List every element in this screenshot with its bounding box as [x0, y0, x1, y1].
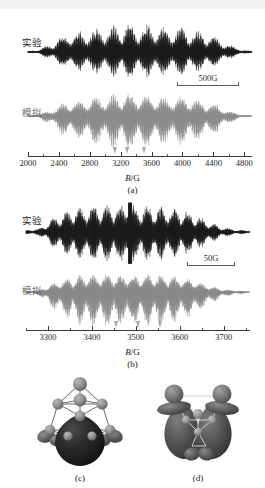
panel-a-scalebar-label: 500G [177, 74, 239, 83]
axis-tick-minor [114, 328, 115, 331]
axis-tick-minor [158, 328, 159, 331]
axis-tick-minor [74, 154, 75, 157]
axis-tick-label: 4400 [205, 159, 222, 168]
axis-tick-major [182, 152, 183, 156]
axis-tick-major [136, 326, 137, 330]
axis-tick-minor [26, 328, 27, 331]
axis-tick-minor [202, 328, 203, 331]
axis-tick-minor [43, 154, 44, 157]
panel-a-simulation-label: 模拟 [22, 108, 43, 118]
axis-tick-minor [229, 154, 230, 157]
panel-a-scalebar-cap-left [177, 82, 178, 86]
panel-d-structure [146, 374, 250, 472]
axis-tick-label: 3500 [127, 333, 144, 342]
axis-tick-label: 4800 [236, 159, 253, 168]
axis-tick-minor [70, 328, 71, 331]
panel-b-experiment-label: 实验 [22, 216, 43, 226]
axis-tick-major [224, 326, 225, 330]
panel-a-markers [0, 142, 265, 154]
axis-tick-major [152, 152, 153, 156]
panel-b-scalebar-line [187, 265, 235, 266]
panel-b-tag: (b) [0, 360, 265, 369]
axis-tick-minor [246, 328, 247, 331]
axis-tick-major [213, 152, 214, 156]
axis-tick-label: 2800 [81, 159, 98, 168]
axis-tick-major [121, 152, 122, 156]
panel-a-experiment-trace [0, 18, 265, 80]
axis-tick-label: 3700 [215, 333, 232, 342]
axis-tick-label: 2400 [50, 159, 67, 168]
panel-b-axis-unit: /G [131, 347, 140, 357]
axis-tick-minor [167, 154, 168, 157]
spectrum-marker-arrow [142, 147, 146, 154]
panel-b-axis-title: B/G [0, 348, 265, 357]
panel-d-tag: (d) [146, 474, 250, 483]
molecule-row: (c) (d) [0, 374, 265, 488]
axis-tick-label: 2000 [20, 159, 37, 168]
axis-tick-major [92, 326, 93, 330]
panel-b-scalebar-cap-right [234, 262, 235, 266]
axis-tick-label: 3200 [112, 159, 129, 168]
axis-tick-major [244, 152, 245, 156]
spectrum-marker-arrow [113, 147, 117, 154]
axis-tick-label: 3600 [171, 333, 188, 342]
panel-a-scalebar-line [177, 85, 239, 86]
spectrum-marker-arrow [125, 147, 129, 154]
panel-a: 实验 模拟 500G 20002400280032003600400044004… [0, 8, 265, 190]
axis-tick-major [180, 326, 181, 330]
panel-b-scalebar-cap-left [187, 262, 188, 266]
panel-a-axis-title: B/G [0, 174, 265, 183]
axis-tick-label: 3400 [83, 333, 100, 342]
panel-a-axis-unit: /G [131, 173, 140, 183]
axis-tick-minor [105, 154, 106, 157]
axis-tick-major [48, 326, 49, 330]
axis-tick-major [90, 152, 91, 156]
panel-b-scalebar: 50G [187, 254, 235, 270]
axis-tick-label: 3300 [39, 333, 56, 342]
figure-root: 实验 模拟 500G 20002400280032003600400044004… [0, 0, 265, 488]
panel-b-markers [0, 316, 265, 328]
axis-tick-minor [136, 154, 137, 157]
panel-b-scalebar-label: 50G [187, 254, 235, 263]
axis-tick-label: 3600 [143, 159, 160, 168]
panel-a-scalebar-cap-right [238, 82, 239, 86]
panel-c-tag: (c) [28, 474, 132, 483]
axis-tick-major [59, 152, 60, 156]
axis-tick-label: 4000 [174, 159, 191, 168]
axis-tick-major [28, 152, 29, 156]
panel-b-axis-line [26, 330, 250, 331]
panel-a-scalebar: 500G [177, 74, 239, 90]
panel-b-simulation-label: 模拟 [22, 286, 43, 296]
panel-b: 实验 模拟 50G 33003400350036003700 B/G (b) [0, 194, 265, 372]
panel-a-axis-line [28, 156, 252, 157]
panel-c-structure [28, 374, 132, 472]
axis-tick-minor [198, 154, 199, 157]
panel-a-experiment-label: 实验 [22, 38, 43, 48]
